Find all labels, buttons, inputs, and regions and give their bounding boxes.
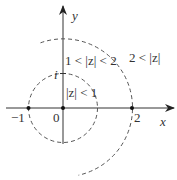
region-label-outer: 2 < |z| — [129, 50, 160, 65]
y-axis-label: y — [70, 8, 78, 23]
x-axis-label: x — [159, 114, 166, 129]
tick-label-i: i — [54, 67, 58, 82]
point-origin — [61, 106, 65, 110]
region-label-inner: |z| < 1 — [66, 85, 97, 100]
diagram-canvas: y x −1 0 2 i 1 < |z| < 2 2 < |z| |z| < 1 — [0, 0, 177, 180]
tick-label-two: 2 — [134, 110, 141, 125]
point-neg-one — [27, 106, 31, 110]
complex-plane-diagram: y x −1 0 2 i 1 < |z| < 2 2 < |z| |z| < 1 — [0, 0, 177, 180]
tick-label-neg-one: −1 — [11, 110, 25, 125]
tick-label-zero: 0 — [53, 110, 60, 125]
region-label-annulus: 1 < |z| < 2 — [65, 53, 117, 68]
